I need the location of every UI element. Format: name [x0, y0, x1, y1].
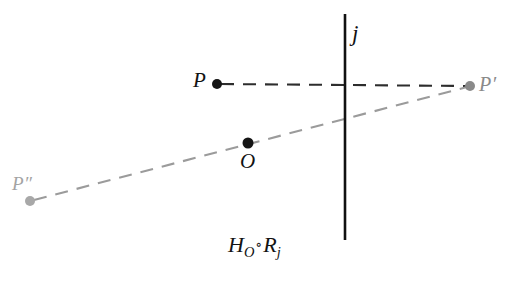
label-point-o: O: [240, 151, 255, 172]
caption-sub-o: O: [244, 244, 254, 260]
geometry-figure: P P′ P″ O j HO∘Rj: [0, 0, 528, 286]
label-line-j: j: [352, 22, 358, 45]
figure-caption: HO∘Rj: [228, 234, 281, 256]
label-point-p-double-prime: P″: [12, 174, 33, 193]
caption-base-h: H: [228, 232, 244, 257]
point-p-prime: [465, 81, 475, 91]
caption-base-r: R: [263, 232, 276, 257]
label-point-p-prime: P′: [479, 74, 497, 94]
composition-ring-icon: ∘: [254, 236, 263, 252]
label-point-p: P: [193, 70, 206, 91]
caption-sub-j: j: [277, 244, 281, 260]
point-o: [243, 138, 254, 149]
point-p-double-prime: [25, 196, 35, 206]
point-p: [212, 79, 222, 89]
